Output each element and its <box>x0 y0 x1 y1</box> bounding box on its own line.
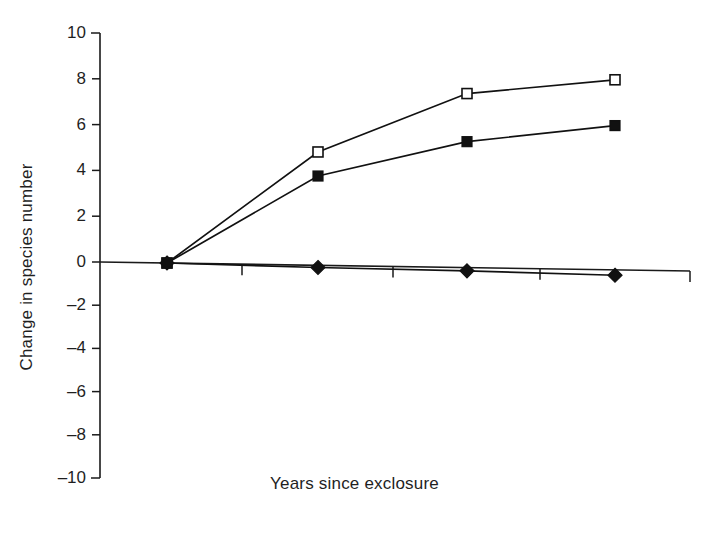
data-point-open-square-series-3 <box>610 75 620 85</box>
data-point-open-square-series-1 <box>313 147 323 157</box>
data-point-open-square-series-2 <box>462 89 472 99</box>
data-series-group <box>160 75 622 282</box>
data-point-filled-diamond-series-2 <box>460 264 474 278</box>
data-point-filled-square-series-3 <box>610 121 620 131</box>
chart-figure: Change in species number Years since exc… <box>0 0 709 534</box>
data-point-filled-square-series-1 <box>313 171 323 181</box>
data-point-filled-square-series-2 <box>462 137 472 147</box>
series-line-filled-square-series <box>167 126 615 263</box>
data-point-filled-diamond-series-1 <box>311 260 325 274</box>
series-line-open-square-series <box>167 80 615 263</box>
plot-area <box>0 0 709 534</box>
